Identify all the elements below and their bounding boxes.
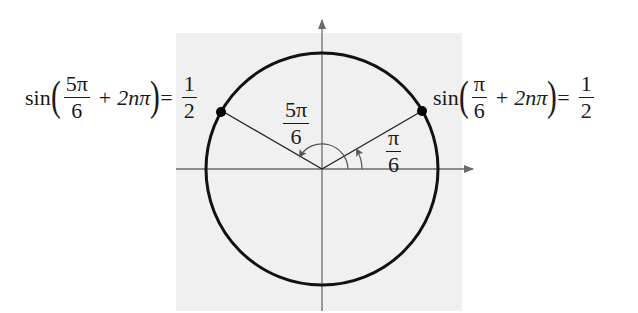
- diagram-canvas: [0, 0, 638, 313]
- right-paren: ): [547, 75, 557, 117]
- equals-sign: =: [557, 85, 569, 111]
- point-pi-over-6: [417, 106, 427, 116]
- unit-circle-diagram: 5π 6 π 6 sin ( 5π 6 + 2nπ ) = 1 2 sin ( …: [0, 0, 638, 313]
- plot-background: [176, 33, 462, 311]
- denominator: 6: [388, 152, 399, 176]
- numerator: 5π: [64, 73, 90, 98]
- numerator: 1: [579, 73, 594, 98]
- left-paren: (: [51, 75, 61, 117]
- sin-function: sin: [433, 85, 459, 111]
- angle-label-pi-over-6: π 6: [383, 125, 404, 176]
- plus-sign: +: [99, 85, 111, 111]
- denominator: 6: [291, 124, 302, 148]
- denominator: 2: [581, 98, 592, 122]
- argument-fraction: π 6: [472, 73, 487, 122]
- denominator: 2: [184, 98, 195, 122]
- result-fraction: 1 2: [182, 73, 197, 122]
- argument-fraction: 5π 6: [64, 73, 90, 122]
- numerator: 1: [182, 73, 197, 98]
- numerator: π: [472, 73, 487, 98]
- period-term: 2nπ: [117, 85, 150, 111]
- denominator: 6: [474, 98, 485, 122]
- numerator: 5π: [283, 99, 309, 124]
- right-paren: ): [150, 75, 160, 117]
- result-fraction: 1 2: [579, 73, 594, 122]
- equals-sign: =: [160, 85, 172, 111]
- plus-sign: +: [496, 85, 508, 111]
- angle-label-5pi-over-6: 5π 6: [280, 97, 312, 148]
- left-paren: (: [459, 75, 469, 117]
- point-5pi-over-6: [216, 107, 226, 117]
- equation-right: sin ( π 6 + 2nπ ) = 1 2: [433, 73, 597, 122]
- period-term: 2nπ: [514, 85, 547, 111]
- denominator: 6: [71, 98, 82, 122]
- equation-left: sin ( 5π 6 + 2nπ ) = 1 2: [25, 73, 200, 122]
- sin-function: sin: [25, 85, 51, 111]
- numerator: π: [386, 127, 401, 152]
